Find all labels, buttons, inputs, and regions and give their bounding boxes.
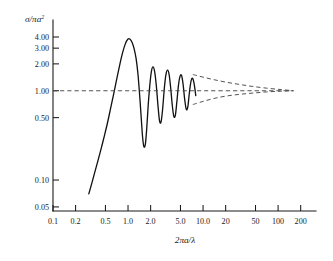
x-tick-label: 5.0 — [175, 217, 185, 226]
data-series-group — [53, 39, 293, 194]
x-tick-label: 20 — [222, 217, 230, 226]
x-tick-label: 1.0 — [123, 217, 133, 226]
y-tick-label: 3.00 — [35, 44, 49, 53]
y-tick-label: 0.10 — [35, 176, 49, 185]
x-tick-label: 2.0 — [146, 217, 156, 226]
y-axis-ticks: 0.050.100.501.002.003.004.00 — [35, 33, 59, 212]
y-tick-label: 4.00 — [35, 33, 49, 42]
y-tick-label: 2.00 — [35, 60, 49, 69]
x-tick-label: 0.1 — [48, 217, 58, 226]
x-tick-label: 0.2 — [71, 217, 81, 226]
series-extinction-efficiency — [89, 39, 196, 194]
x-tick-label: 10.0 — [196, 217, 210, 226]
x-tick-label: 50 — [251, 217, 259, 226]
y-axis-title: σ/πa2 — [25, 14, 44, 24]
y-tick-label: 1.00 — [35, 87, 49, 96]
x-axis-ticks: 0.10.20.51.02.05.010.02050100200 — [48, 205, 307, 226]
series-upper-envelope — [193, 75, 294, 91]
x-tick-label: 0.5 — [100, 217, 110, 226]
x-tick-label: 100 — [272, 217, 284, 226]
x-axis-title: 2πa/λ — [175, 235, 195, 245]
plot-canvas: 0.050.100.501.002.003.004.00 0.10.20.51.… — [0, 0, 333, 261]
series-lower-envelope — [193, 91, 294, 105]
x-tick-label: 200 — [295, 217, 307, 226]
y-tick-label: 0.50 — [35, 114, 49, 123]
y-tick-label: 0.05 — [35, 203, 49, 212]
mie-scattering-figure: 0.050.100.501.002.003.004.00 0.10.20.51.… — [0, 0, 333, 261]
